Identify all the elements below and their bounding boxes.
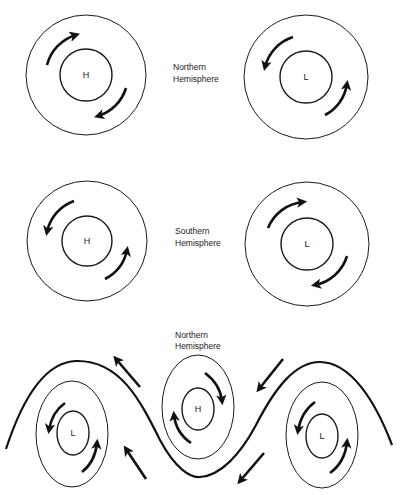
wave-hemisphere-label: Northern Hemisphere: [175, 330, 221, 351]
svg-text:Northern: Northern: [175, 330, 208, 340]
svg-text:Northern: Northern: [173, 62, 206, 72]
southern-hemisphere-label: Southern Hemisphere: [175, 226, 221, 248]
wave-high-system: H: [162, 355, 234, 459]
svg-text:Hemisphere: Hemisphere: [175, 238, 221, 248]
counterclockwise-arrow-icon: [330, 442, 347, 473]
clockwise-arrow-icon: [47, 35, 76, 65]
counterclockwise-arrow-icon: [47, 201, 74, 232]
counterclockwise-arrow-icon: [298, 402, 315, 431]
flow-arrow-icon: [116, 359, 140, 387]
pressure-systems-diagram: H Northern Hemisphere L H Southern Hemis…: [0, 0, 402, 495]
southern-high-system: H: [27, 181, 147, 301]
southern-low-system: L: [245, 182, 369, 306]
clockwise-arrow-icon: [174, 415, 191, 443]
clockwise-arrow-icon: [98, 88, 126, 116]
low-label: L: [303, 72, 308, 82]
northern-low-system: L: [244, 15, 368, 139]
wave-low-system-right: L: [286, 382, 358, 488]
counterclockwise-arrow-icon: [265, 37, 293, 67]
high-label: H: [84, 236, 91, 246]
svg-text:Hemisphere: Hemisphere: [173, 74, 219, 84]
counterclockwise-arrow-icon: [82, 443, 97, 472]
flow-arrow-icon: [259, 359, 283, 389]
flow-arrow-icon: [240, 453, 264, 481]
northern-high-system: H: [26, 15, 146, 135]
clockwise-arrow-icon: [205, 373, 222, 401]
counterclockwise-arrow-icon: [325, 84, 347, 115]
svg-text:Hemisphere: Hemisphere: [175, 341, 221, 351]
low-label: L: [304, 239, 309, 249]
high-label: H: [195, 404, 202, 414]
clockwise-arrow-icon: [315, 256, 347, 285]
low-label: L: [319, 431, 324, 441]
wave-low-system-left: L: [36, 381, 108, 487]
high-label: H: [83, 70, 90, 80]
clockwise-arrow-icon: [268, 202, 303, 228]
low-label: L: [70, 428, 75, 438]
flow-arrow-icon: [126, 449, 146, 479]
northern-hemisphere-label: Northern Hemisphere: [173, 62, 219, 84]
svg-text:Southern: Southern: [175, 226, 210, 236]
jet-stream-wave: [6, 361, 392, 477]
